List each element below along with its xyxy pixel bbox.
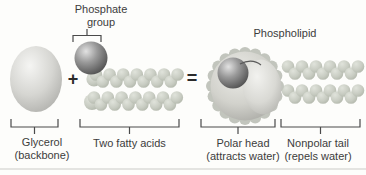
phosphate-group-label-line2: group	[75, 16, 128, 29]
phosphate-group-label-line1: Phosphate	[75, 3, 128, 16]
fatty-acid-chain-bottom	[84, 91, 183, 111]
tail-chain-top	[282, 60, 365, 80]
fatty-acid-chain-top	[86, 68, 184, 88]
nonpolar-tail-label-line1: Nonpolar tail	[284, 137, 351, 150]
polar-head-label-line2: (attracts water)	[206, 150, 279, 163]
nonpolar-tail-label: Nonpolar tail (repels water)	[284, 137, 351, 162]
phosphate-group-bracket	[73, 29, 101, 42]
phospholipid-label: Phospholipid	[254, 27, 317, 40]
page-edge-rule	[0, 168, 366, 170]
nonpolar-tail-label-line2: (repels water)	[284, 150, 351, 163]
glycerol-label: Glycerol (backbone)	[14, 136, 69, 161]
glycerol-label-line2: (backbone)	[14, 149, 69, 162]
tail-chain-bottom	[282, 84, 365, 104]
glycerol-bracket	[11, 119, 58, 134]
nonpolar-tail-bracket	[281, 119, 360, 134]
phosphate-group-label: Phosphate group	[75, 3, 128, 28]
two-fatty-acids-bracket	[80, 119, 179, 134]
glycerol-label-line1: Glycerol	[14, 136, 69, 149]
plus-operator: +	[68, 69, 79, 90]
phospholipid-figure: Phosphate group Phospholipid + = Glycero…	[0, 0, 366, 175]
two-fatty-acids-label: Two fatty acids	[93, 137, 166, 150]
polar-head-label: Polar head (attracts water)	[206, 137, 279, 162]
glycerol-oval	[10, 46, 62, 112]
phosphate-sphere	[75, 42, 108, 75]
polar-head-label-line1: Polar head	[206, 137, 279, 150]
equals-operator: =	[187, 68, 198, 89]
